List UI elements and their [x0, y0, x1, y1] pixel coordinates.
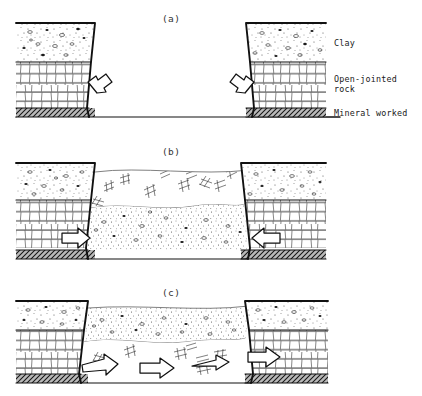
- panel-b-left-block: [16, 163, 95, 259]
- clay-layer-fill: [246, 24, 326, 62]
- fines-zone-fill: [86, 204, 248, 250]
- geological-cross-section-figure: (a): [0, 0, 422, 396]
- panel-c-label: (c): [162, 287, 180, 298]
- rock-layer-fill: [250, 62, 326, 85]
- rock-layer-fill-2: [16, 352, 84, 374]
- mineral-worked-layer: [16, 250, 95, 259]
- clay-layer-fill: [241, 164, 326, 200]
- panel-a-label: (a): [162, 13, 180, 24]
- rock-layer-fill: [245, 200, 326, 224]
- rock-layer-fill-2: [16, 85, 91, 108]
- rock-layer-fill: [249, 330, 328, 352]
- clay-layer-fill: [245, 302, 328, 330]
- legend-rock-label-line1: Open-jointed: [334, 74, 397, 84]
- fragment-zone-fill: [91, 170, 250, 208]
- mineral-worked-layer: [246, 108, 326, 117]
- fines-zone-fill: [84, 306, 249, 342]
- mineral-worked-layer: [245, 374, 328, 383]
- clay-layer-fill: [16, 24, 95, 62]
- legend-mineral-label: Mineral worked: [334, 108, 407, 118]
- panel-c-left-block: [16, 301, 88, 383]
- mineral-worked-layer: [16, 374, 88, 383]
- mineral-worked-layer: [16, 108, 95, 117]
- rock-layer-fill: [16, 200, 91, 224]
- clay-layer-fill: [16, 302, 88, 330]
- rock-layer-fill: [16, 330, 84, 352]
- panel-b-backfill: [86, 167, 250, 250]
- legend-clay-label: Clay: [334, 38, 355, 48]
- cross-section-svg: (a): [0, 0, 422, 396]
- legend-rock-label-line2: rock: [334, 84, 355, 94]
- clay-layer-fill: [16, 164, 95, 200]
- panel-a-right-block: [246, 23, 340, 117]
- rock-layer-fill-2: [250, 85, 326, 108]
- panel-b-label: (b): [162, 146, 180, 157]
- mineral-worked-layer: [241, 250, 326, 259]
- rock-layer-fill: [16, 62, 91, 85]
